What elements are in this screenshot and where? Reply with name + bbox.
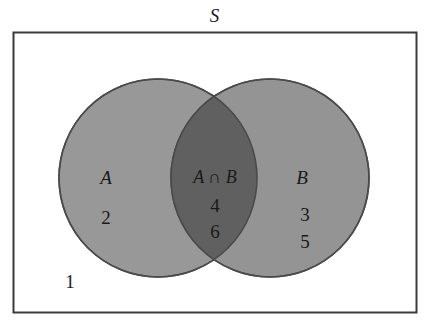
element-intersection-4: 4 <box>185 196 245 215</box>
element-outside-1: 1 <box>55 272 85 291</box>
element-intersection-6: 6 <box>185 222 245 241</box>
element-a-only-2: 2 <box>86 208 126 227</box>
element-b-only-5: 5 <box>285 232 325 251</box>
set-a-label: A <box>86 168 126 187</box>
set-b-label: B <box>282 168 322 187</box>
universe-label: S <box>0 6 429 25</box>
element-b-only-3: 3 <box>285 205 325 224</box>
venn-diagram-figure: S A 2 A ∩ B 4 6 B 3 5 1 <box>0 0 429 334</box>
intersection-label: A ∩ B <box>165 168 265 186</box>
